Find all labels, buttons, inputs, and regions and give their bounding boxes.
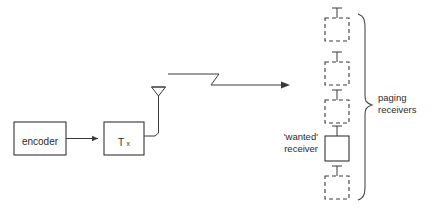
receiver-box [325,176,349,199]
curly-brace-path [358,14,372,200]
encoder-to-transmitter-arrow [66,136,98,141]
diagram-canvas: encoder T x [0,0,438,210]
signal-line [168,74,286,85]
antenna-dish [152,87,166,96]
arrow-right-icon-head [92,136,98,141]
transmitter-label: T [118,136,124,147]
receiver-5 [325,166,349,199]
signal-arrowhead [281,81,290,88]
receiver-box [325,100,349,123]
encoder-block: encoder [14,122,66,155]
paging-system-diagram: encoder T x [0,0,438,210]
receiver-4-wanted [325,126,349,161]
receiver-box [325,62,349,85]
receiver-box [325,18,349,41]
antenna-feed-wire [144,96,159,136]
antenna-icon [144,87,166,136]
receiver-3 [325,90,349,123]
encoder-label: encoder [22,136,59,147]
wanted-receiver-annotation: 'wanted' receiver [284,131,318,154]
paging-receivers-label-line1: paging [378,92,407,103]
transmitter-block: T x [104,122,144,155]
receiver-1 [325,8,349,41]
curly-brace-icon [358,14,372,200]
wanted-receiver-box [325,136,349,161]
transmitter-label-main: T [118,136,124,147]
paging-receivers-annotation: paging receivers [378,92,417,115]
wanted-receiver-label-line1: 'wanted' [284,131,318,142]
receiver-2 [325,52,349,85]
wanted-receiver-label-line2: receiver [284,143,318,154]
radio-signal-arrow-icon [168,74,290,89]
paging-receivers-label-line2: receivers [378,104,417,115]
